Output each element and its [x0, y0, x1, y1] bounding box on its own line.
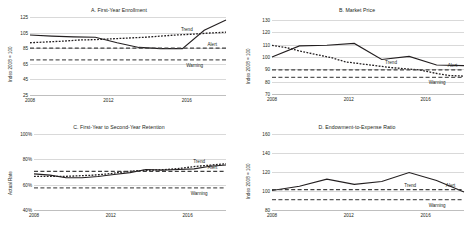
annotation-trend: Trend — [404, 182, 416, 187]
gridline — [34, 210, 226, 211]
gridline — [272, 210, 464, 211]
annotation-trend: Trend — [181, 27, 193, 32]
y-axis-tick-label: 90 — [265, 67, 270, 72]
annotation-alert: Alert — [448, 63, 457, 68]
x-axis-tick-label: 2012 — [344, 213, 354, 218]
y-axis-label-c: Actual Rate — [8, 171, 13, 195]
y-axis-tick-label: 110 — [263, 42, 270, 47]
y-axis-tick-label: 40% — [23, 208, 32, 213]
x-axis-tick-label: 2012 — [344, 97, 354, 102]
x-axis-tick-label: 2016 — [420, 213, 430, 218]
gridline — [272, 94, 464, 95]
plot-area-b: 708090100110120130200820122016TrendAlert… — [272, 20, 464, 94]
panel-title-d: D. Endowment-to-Expense Ratio — [238, 124, 476, 130]
y-axis-tick-label: 140 — [262, 151, 270, 156]
y-axis-tick-label: 65 — [23, 61, 28, 66]
y-axis-label-d: Index 2008 = 100 — [246, 163, 251, 199]
chart-panel-d: D. Endowment-to-Expense Ratio Index 2008… — [238, 117, 476, 233]
chart-panel-c: C. First-Year to Second-Year Retention A… — [0, 117, 238, 233]
series-layer — [272, 134, 464, 210]
gridline — [30, 95, 226, 96]
x-axis-tick-label: 2008 — [29, 213, 39, 218]
y-axis-tick-label: 120 — [262, 170, 270, 175]
annotation-warning: Warning — [429, 202, 446, 207]
x-axis-tick-label: 2008 — [267, 97, 277, 102]
series-line-trend — [30, 32, 226, 43]
y-axis-tick-label: 105 — [20, 30, 28, 35]
panel-title-a: A. First-Year Enrollment — [0, 7, 238, 13]
series-layer — [34, 134, 226, 210]
annotation-alert: Alert — [446, 183, 455, 188]
y-axis-label-b: Index 2008 = 100 — [246, 48, 251, 84]
y-axis-tick-label: 85 — [23, 46, 28, 51]
panel-title-c: C. First-Year to Second-Year Retention — [0, 124, 238, 130]
plot-area-a: 25456585105125200820122016TrendAlertWarn… — [30, 17, 226, 95]
y-axis-tick-label: 120 — [262, 30, 270, 35]
annotation-warning: Warning — [191, 190, 208, 195]
y-axis-tick-label: 70 — [265, 92, 270, 97]
annotation-alert: Alert — [208, 164, 217, 169]
y-axis-label-a: Index 2008 = 100 — [8, 46, 13, 82]
x-axis-tick-label: 2016 — [182, 98, 192, 103]
y-axis-tick-label: 60% — [23, 182, 32, 187]
series-line-actual — [272, 43, 464, 65]
y-axis-tick-label: 125 — [20, 15, 28, 20]
plot-area-c: 40%60%80%100%200820122016TrendAlertWarni… — [34, 134, 226, 210]
plot-area-d: 80100120140160200820122016TrendAlertWarn… — [272, 134, 464, 210]
panel-title-b: B. Market Price — [238, 7, 476, 13]
x-axis-tick-label: 2008 — [25, 98, 35, 103]
series-line-trend — [272, 45, 464, 76]
y-axis-tick-label: 160 — [262, 132, 270, 137]
chart-panel-a: A. First-Year Enrollment Index 2008 = 10… — [0, 0, 238, 117]
y-axis-tick-label: 80% — [23, 157, 32, 162]
annotation-warning: Warning — [186, 62, 203, 67]
x-axis-tick-label: 2012 — [106, 213, 116, 218]
y-axis-tick-label: 25 — [23, 93, 28, 98]
annotation-trend: Trend — [385, 60, 397, 65]
x-axis-tick-label: 2016 — [420, 97, 430, 102]
annotation-alert: Alert — [208, 41, 217, 46]
x-axis-tick-label: 2016 — [182, 213, 192, 218]
y-axis-tick-label: 100% — [20, 132, 32, 137]
y-axis-tick-label: 80 — [265, 79, 270, 84]
y-axis-tick-label: 130 — [262, 18, 270, 23]
x-axis-tick-label: 2008 — [267, 213, 277, 218]
series-line-trend — [34, 164, 226, 177]
y-axis-tick-label: 45 — [23, 77, 28, 82]
series-layer — [30, 17, 226, 95]
y-axis-tick-label: 100 — [262, 189, 270, 194]
y-axis-tick-label: 80 — [265, 208, 270, 213]
annotation-warning: Warning — [429, 80, 446, 85]
chart-panel-b: B. Market Price Index 2008 = 100 7080901… — [238, 0, 476, 117]
chart-figure: A. First-Year Enrollment Index 2008 = 10… — [0, 0, 476, 233]
x-axis-tick-label: 2012 — [103, 98, 113, 103]
y-axis-tick-label: 100 — [262, 55, 270, 60]
annotation-trend: Trend — [193, 159, 205, 164]
